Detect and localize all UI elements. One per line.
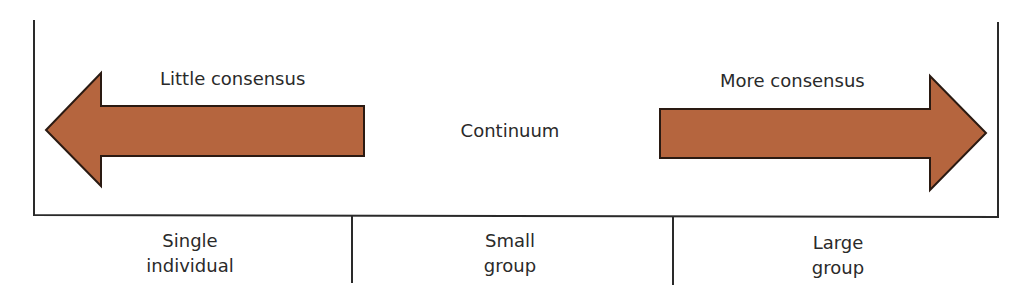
little-consensus-label: Little consensus: [160, 66, 310, 92]
category-line1: Small: [420, 228, 600, 253]
category-small-group: Small group: [420, 228, 600, 278]
category-line2: group: [748, 255, 928, 280]
category-line1: Large: [748, 230, 928, 255]
category-single-individual: Single individual: [100, 228, 280, 278]
category-line2: group: [420, 253, 600, 278]
category-line2: individual: [100, 253, 280, 278]
category-large-group: Large group: [748, 230, 928, 280]
category-line1: Single: [100, 228, 280, 253]
more-consensus-label: More consensus: [720, 68, 880, 94]
continuum-label: Continuum: [440, 118, 580, 144]
